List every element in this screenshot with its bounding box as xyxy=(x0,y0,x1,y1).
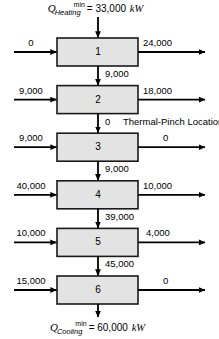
residual-label-4: 39,000 xyxy=(105,212,134,222)
thermal-pinch-annotation: Thermal-Pinch Location xyxy=(123,117,219,127)
residual-label-5: 45,000 xyxy=(105,259,134,269)
input-label-2: 9,000 xyxy=(19,86,43,96)
heating-q-subscript: Heating xyxy=(55,8,81,17)
input-label-3: 9,000 xyxy=(19,133,43,143)
interval-label-4: 4 xyxy=(95,190,101,200)
output-label-6: 0 xyxy=(163,276,168,286)
cooling-q-unit: kW xyxy=(132,322,145,333)
cooling-q-subscript: Cooling xyxy=(57,327,82,336)
diagram-labels: QHeatingmin= 33,000 kW 1 2 3 4 5 6 0 9,0… xyxy=(0,0,219,339)
output-label-4: 10,000 xyxy=(143,181,172,191)
cooling-q-superscript: min xyxy=(75,320,86,327)
input-label-1: 0 xyxy=(28,38,33,48)
output-label-2: 18,000 xyxy=(143,86,172,96)
input-label-4: 40,000 xyxy=(16,181,45,191)
interval-label-1: 1 xyxy=(95,47,101,57)
residual-label-3: 9,000 xyxy=(105,164,129,174)
heating-q-superscript: min xyxy=(74,1,85,8)
output-label-3: 0 xyxy=(163,133,168,143)
residual-label-2: 0 xyxy=(105,117,110,127)
heating-q-value: = 33,000 xyxy=(87,3,126,14)
heating-utility-label: QHeatingmin= 33,000 kW xyxy=(48,3,149,15)
input-label-5: 10,000 xyxy=(16,228,45,238)
output-label-5: 4,000 xyxy=(146,228,170,238)
interval-label-5: 5 xyxy=(95,237,101,247)
cooling-q-value: = 60,000 xyxy=(89,322,128,333)
heat-cascade-diagram: QHeatingmin= 33,000 kW 1 2 3 4 5 6 0 9,0… xyxy=(0,0,219,339)
input-label-6: 15,000 xyxy=(16,276,45,286)
interval-label-6: 6 xyxy=(95,285,101,295)
heating-q-unit: kW xyxy=(130,3,143,14)
interval-label-3: 3 xyxy=(95,142,101,152)
output-label-1: 24,000 xyxy=(143,38,172,48)
cooling-utility-label: QCoolingmin= 60,000 kW xyxy=(50,322,150,334)
interval-label-2: 2 xyxy=(95,95,101,105)
residual-label-1: 9,000 xyxy=(105,69,129,79)
